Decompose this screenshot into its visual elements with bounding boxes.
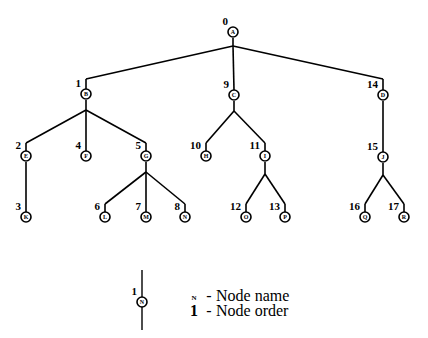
tree-node-r[interactable]: R17 [388, 200, 409, 222]
node-name-r: R [402, 214, 407, 220]
edge-j-q-diagonal [365, 175, 383, 204]
tree-node-n[interactable]: N8 [175, 200, 191, 222]
node-order-2: 2 [16, 139, 22, 151]
node-name-j: J [382, 154, 385, 160]
node-name-n: N [183, 214, 188, 220]
tree-node-b[interactable]: B1 [76, 77, 92, 99]
node-name-f: F [84, 153, 88, 159]
tree-node-l[interactable]: L6 [95, 200, 111, 222]
node-name-g: G [144, 153, 149, 159]
node-order-16: 16 [349, 200, 361, 212]
tree-node-k[interactable]: K3 [16, 200, 32, 222]
node-order-1: 1 [76, 77, 82, 89]
edge-a-b-diagonal [86, 46, 233, 79]
tree-node-q[interactable]: Q16 [349, 200, 370, 222]
node-order-4: 4 [76, 139, 82, 151]
tree-node-p[interactable]: P13 [269, 200, 290, 222]
node-name-c: C [232, 92, 236, 98]
node-name-q: Q [363, 214, 368, 220]
legend-row-1: 1-Node order [186, 302, 288, 320]
tree-node-f[interactable]: F4 [76, 139, 92, 161]
legend-key-1: 1 [186, 302, 202, 320]
node-order-9: 9 [224, 78, 230, 90]
node-name-k: K [24, 214, 29, 220]
node-name-o: O [244, 214, 249, 220]
tree-node-d[interactable]: D14 [367, 78, 388, 100]
node-order-6: 6 [95, 200, 101, 212]
node-order-1: 1 [132, 285, 138, 297]
node-order-3: 3 [16, 200, 22, 212]
edge-c-h-diagonal [206, 111, 234, 143]
tree-node-m[interactable]: M7 [136, 200, 152, 222]
edge-a-c [233, 46, 234, 90]
node-order-7: 7 [136, 200, 142, 212]
edge-a-d-diagonal [233, 46, 383, 79]
node-order-13: 13 [269, 200, 281, 212]
node-order-10: 10 [190, 139, 202, 151]
tree-node-h[interactable]: H10 [190, 139, 211, 161]
node-name-d: D [381, 92, 386, 98]
edges-group [26, 38, 404, 212]
node-name-m: M [143, 214, 149, 220]
nodes-group: A0B1C9D14E2F4G5H10I11J15K3L6M7N8O12P13Q1… [16, 15, 410, 222]
node-name-h: H [204, 153, 209, 159]
legend-sample-node: N1 [132, 285, 148, 307]
node-order-8: 8 [175, 200, 181, 212]
legend-description-1: Node order [216, 302, 288, 320]
node-order-0: 0 [223, 15, 229, 27]
edge-i-o-diagonal [246, 174, 265, 204]
node-order-17: 17 [388, 200, 400, 212]
node-name-a: A [231, 29, 236, 35]
tree-node-a[interactable]: A0 [223, 15, 239, 37]
tree-node-c[interactable]: C9 [224, 78, 240, 100]
node-name-n: N [140, 299, 145, 305]
legend-key-0: N [186, 294, 202, 302]
node-order-15: 15 [367, 140, 379, 152]
tree-node-j[interactable]: J15 [367, 140, 388, 162]
node-order-14: 14 [367, 78, 379, 90]
node-name-p: P [283, 214, 287, 220]
node-name-l: L [103, 214, 107, 220]
legend-sample-node-glyph[interactable]: N1 [132, 285, 148, 307]
node-name-b: B [84, 91, 88, 97]
node-order-12: 12 [230, 200, 242, 212]
tree-diagram-canvas: A0B1C9D14E2F4G5H10I11J15K3L6M7N8O12P13Q1… [0, 0, 428, 338]
node-name-e: E [24, 153, 28, 159]
tree-node-o[interactable]: O12 [230, 200, 251, 222]
tree-node-i[interactable]: I11 [250, 139, 270, 161]
node-order-5: 5 [136, 139, 142, 151]
legend-dash-1: - [202, 302, 216, 320]
node-order-11: 11 [250, 139, 260, 151]
